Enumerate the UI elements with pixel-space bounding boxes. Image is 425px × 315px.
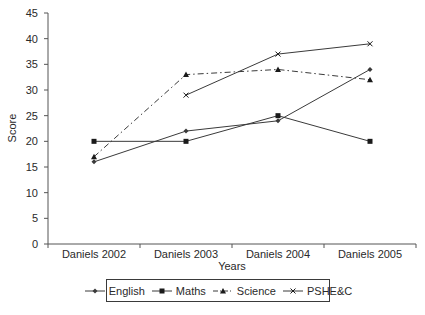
series-science [91,66,373,159]
y-tick-label: 45 [26,7,38,19]
x-marker-icon [282,287,304,295]
triangle-marker-icon [212,287,234,295]
y-tick-label: 5 [32,212,38,224]
series-english [92,67,373,164]
y-tick-label: 20 [26,135,38,147]
legend-label: Maths [176,285,206,297]
legend-item-pshec: PSHE&C [282,285,352,297]
legend-label: Science [237,285,276,297]
line-chart: 051015202530354045 Daniels 2002Daniels 2… [0,0,425,315]
y-tick-label: 30 [26,84,38,96]
legend-item-english: English [84,285,145,297]
series-maths [92,113,373,144]
y-axis: 051015202530354045 [26,7,48,250]
legend-item-science: Science [212,285,276,297]
y-tick-label: 25 [26,110,38,122]
y-tick-label: 40 [26,33,38,45]
diamond-marker-icon [84,287,106,295]
y-axis-label: Score [6,114,18,143]
x-tick-label: Daniels 2002 [62,248,126,260]
x-axis-label: Years [218,260,246,272]
y-tick-label: 0 [32,238,38,250]
legend-label: English [109,285,145,297]
series-layer [91,41,373,164]
x-axis: Daniels 2002Daniels 2003Daniels 2004Dani… [48,244,416,260]
legend-label: PSHE&C [307,285,352,297]
y-tick-label: 35 [26,58,38,70]
square-marker-icon [151,287,173,295]
x-tick-label: Daniels 2003 [154,248,218,260]
legend-item-maths: Maths [151,285,206,297]
y-tick-label: 10 [26,187,38,199]
x-tick-label: Daniels 2005 [338,248,402,260]
legend: English Maths Science PSHE&C [106,279,330,302]
y-tick-label: 15 [26,161,38,173]
x-tick-label: Daniels 2004 [246,248,310,260]
